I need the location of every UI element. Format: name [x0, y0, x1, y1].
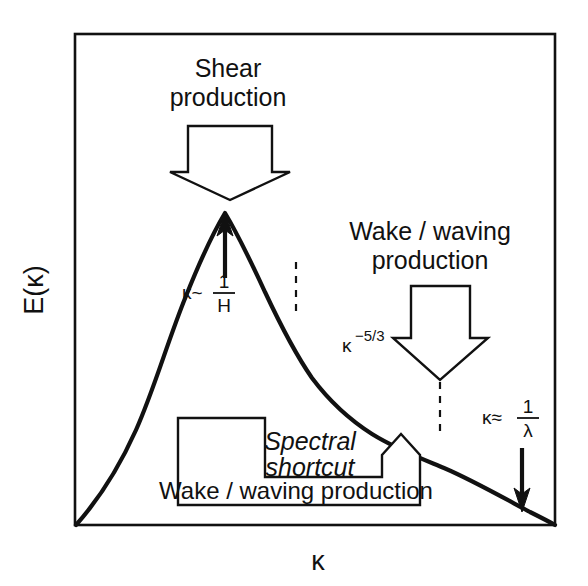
- kappa-h-numerator-label: 1: [219, 271, 230, 292]
- wake-production-box-label: Wake / waving production: [159, 477, 433, 504]
- slope-label-base: κ: [342, 335, 352, 356]
- shear-production-label-line2: production: [170, 83, 287, 111]
- x-axis-label: κ: [311, 546, 325, 576]
- spectrum-figure: E(κ) κ Shear production κ~ 1 H Wake / wa…: [0, 0, 588, 586]
- kappa-h-denominator-label: H: [217, 295, 231, 316]
- shear-production-label-line1: Shear: [195, 54, 262, 82]
- spectral-shortcut-label-line1: Spectral: [264, 427, 357, 455]
- figure-canvas: E(κ) κ Shear production κ~ 1 H Wake / wa…: [0, 0, 588, 586]
- slope-label-exponent: −5/3: [355, 327, 385, 344]
- wake-production-label-line2: production: [372, 246, 489, 274]
- wake-production-label-line1: Wake / waving: [349, 217, 511, 245]
- kappa-h-prefix-label: κ~: [182, 282, 203, 303]
- shear-production-arrow-icon: [170, 126, 290, 200]
- kappa-lambda-denominator-label: λ: [523, 420, 533, 441]
- kappa-lambda-numerator-label: 1: [523, 396, 534, 417]
- y-axis-label: E(κ): [19, 265, 49, 315]
- kappa-lambda-prefix-label: κ≈: [482, 407, 502, 428]
- wake-production-arrow-icon: [393, 286, 488, 380]
